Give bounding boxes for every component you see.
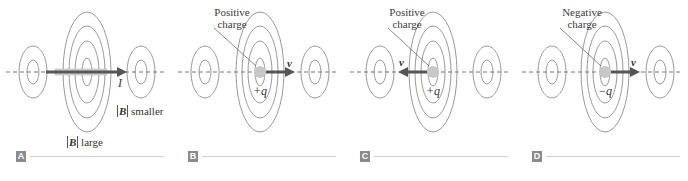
callout-line-2: charge	[202, 19, 262, 30]
panel-badge: B	[188, 151, 198, 162]
panel-badge: D	[532, 151, 542, 162]
divider	[374, 156, 508, 157]
callout-line-1: Negative	[552, 7, 612, 18]
callout-line-1: Positive	[377, 7, 437, 18]
callout-line-1: Positive	[202, 7, 262, 18]
b-smaller-label: B smaller	[117, 105, 163, 117]
panel-d: Negative charge v −q D	[516, 0, 688, 181]
velocity-label: v	[631, 56, 636, 68]
divider	[546, 156, 680, 157]
callout-line-2: charge	[377, 19, 437, 30]
panel-b: Positive charge v +q B	[172, 0, 344, 181]
b-large-label: B large	[67, 136, 103, 148]
velocity-label: v	[399, 56, 404, 68]
panel-a: I B smaller B large A	[0, 0, 172, 181]
velocity-label: v	[287, 57, 292, 69]
divider	[202, 156, 336, 157]
charge-label: −q	[598, 84, 612, 99]
panel-badge: A	[16, 151, 26, 162]
divider	[30, 156, 164, 157]
charge-label: +q	[426, 84, 440, 99]
charge-label: +q	[253, 84, 267, 99]
current-label: I	[118, 76, 122, 91]
callout-line-2: charge	[552, 19, 612, 30]
panel-c: Positive charge v +q C	[344, 0, 516, 181]
panel-badge: C	[360, 151, 370, 162]
